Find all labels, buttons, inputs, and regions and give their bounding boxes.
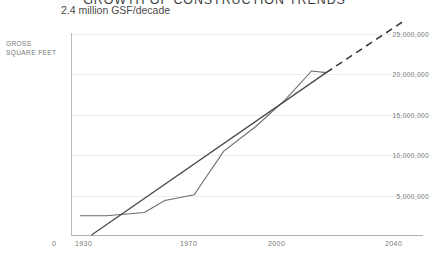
- series-trend-line: [92, 73, 327, 235]
- chart-root: GROWTH OF CONSTRUCTION TRENDS 2.4 millio…: [0, 0, 429, 253]
- series-data-line: [80, 71, 326, 216]
- series-layer: [0, 0, 429, 253]
- series-projection-line: [326, 22, 402, 73]
